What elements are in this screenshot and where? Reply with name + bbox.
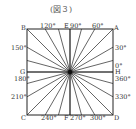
angle-label-330: 330° [115, 93, 131, 101]
ray-line-165 [27, 60, 70, 72]
midpoint-label-f: F [64, 114, 69, 122]
ray-line-75 [70, 29, 82, 72]
angle-label-300: 300° [90, 114, 106, 122]
angle-diagram: (図３) B A C D E F G H 120° 90° 60° 150° 1… [0, 0, 136, 129]
ray-line-345 [70, 72, 113, 84]
angle-label-90: 90° [70, 22, 82, 30]
angle-label-120: 120° [40, 22, 56, 30]
angle-label-180: 180° [14, 75, 30, 83]
angle-label-30: 30° [115, 44, 127, 52]
corner-label-d: D [114, 114, 119, 122]
ray-line-255 [58, 72, 70, 115]
center-point [68, 70, 72, 74]
angle-label-360: 360° [115, 75, 131, 83]
angle-label-240: 240° [41, 114, 57, 122]
angle-label-150: 150° [11, 44, 27, 52]
angle-label-270: 270° [70, 114, 86, 122]
corner-label-a: A [113, 24, 119, 32]
ray-line-105 [58, 29, 70, 72]
ray-line-285 [70, 72, 82, 115]
angle-label-210: 210° [11, 93, 27, 101]
corner-label-b: B [21, 24, 26, 32]
ray-line-195 [27, 72, 70, 84]
midpoint-label-e: E [64, 22, 69, 30]
angle-label-0: 0° [115, 62, 122, 70]
angle-label-60: 60° [92, 22, 104, 30]
ray-line-15 [70, 60, 113, 72]
corner-label-c: C [21, 114, 26, 122]
figure-title: (図３) [50, 5, 72, 14]
